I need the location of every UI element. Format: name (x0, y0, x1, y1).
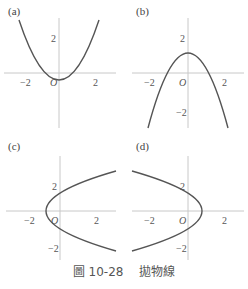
figure-caption: 圖 10-28 拋物線 (0, 262, 248, 279)
x-tick-2: 2 (93, 77, 98, 88)
origin-label: O (179, 215, 186, 226)
origin-label: O (51, 215, 58, 226)
panel-c-plot: −2 2 O 2 −2 (0, 130, 124, 260)
x-tick-neg2: −2 (20, 77, 31, 88)
panel-d-plot: −2 2 O 2 −2 (124, 130, 248, 260)
x-tick-neg2: −2 (144, 77, 155, 88)
figure-title: 拋物線 (139, 265, 175, 279)
panel-a-plot: −2 2 O 2 (0, 0, 124, 130)
x-tick-neg2: −2 (24, 215, 35, 226)
origin-label: O (179, 77, 186, 88)
y-tick-2: 2 (51, 33, 56, 44)
y-tick-2: 2 (180, 33, 185, 44)
panel-b: (b) −2 2 O 2 −2 (124, 0, 248, 130)
panel-d: (d) −2 2 O 2 −2 (124, 130, 248, 260)
x-tick-2: 2 (222, 77, 227, 88)
panel-c: (c) −2 2 O 2 −2 (0, 130, 124, 260)
y-tick-neg2: −2 (176, 107, 187, 118)
y-tick-neg2: −2 (176, 243, 187, 254)
panel-a: (a) −2 2 O 2 (0, 0, 124, 130)
y-tick-neg2: −2 (48, 243, 59, 254)
y-tick-2: 2 (180, 181, 185, 192)
figure-number: 圖 10-28 (73, 265, 124, 279)
y-tick-2: 2 (52, 181, 57, 192)
x-tick-neg2: −2 (144, 215, 155, 226)
panel-b-plot: −2 2 O 2 −2 (124, 0, 248, 130)
x-tick-2: 2 (222, 215, 227, 226)
x-tick-2: 2 (94, 215, 99, 226)
origin-label: O (50, 77, 57, 88)
